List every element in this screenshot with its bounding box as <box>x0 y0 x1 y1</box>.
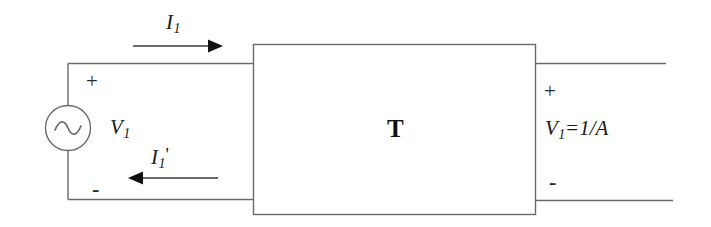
arrow-i1-head <box>208 40 223 53</box>
label-output-expression-symbol: V <box>545 116 558 140</box>
circuit-schematic-svg <box>0 0 711 227</box>
label-input-voltage-subscript: 1 <box>123 126 130 141</box>
label-input-current-symbol: I <box>166 10 173 34</box>
label-input-current: I1 <box>166 12 181 36</box>
two-port-block-label: T <box>387 116 404 141</box>
label-output-expression: V1=1/A <box>545 118 608 142</box>
label-input-current-subscript: 1 <box>174 21 181 36</box>
label-output-expression-equals: = <box>566 116 578 140</box>
label-reflected-current-prime: ' <box>166 144 169 165</box>
label-reflected-current: I1' <box>151 145 169 171</box>
label-input-voltage-symbol: V <box>110 115 123 139</box>
polarity-plus-input: + <box>86 71 98 92</box>
label-reflected-current-symbol: I <box>151 145 158 169</box>
polarity-plus-output: + <box>544 81 556 102</box>
arrow-i1prime-head <box>128 172 143 185</box>
label-input-voltage: V1 <box>110 117 130 141</box>
label-output-expression-value: 1/A <box>579 116 608 140</box>
label-reflected-current-subscript: 1 <box>159 156 166 171</box>
circuit-diagram-canvas: I1 I1' V1 V1=1/A + - + - T <box>0 0 711 227</box>
polarity-minus-input: - <box>92 183 99 194</box>
polarity-minus-output: - <box>549 176 556 187</box>
label-output-expression-subscript: 1 <box>558 127 565 142</box>
